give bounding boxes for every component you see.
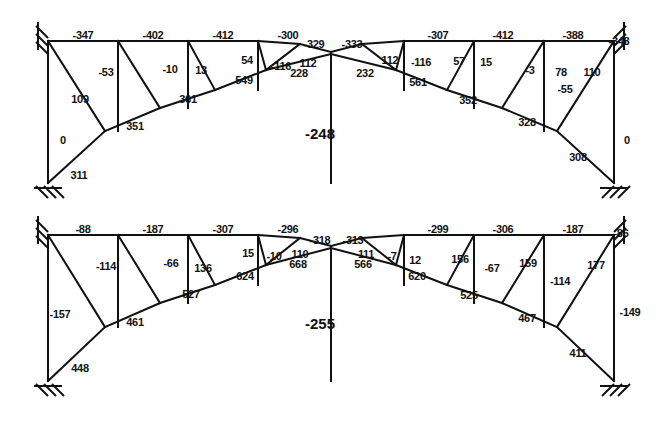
bottom-chord-value-8: -306 bbox=[493, 224, 514, 235]
bottom-truss-center-value: -255 bbox=[305, 316, 335, 331]
top-truss-top-chord bbox=[48, 41, 614, 52]
top-chord-value-10: -348 bbox=[609, 36, 630, 47]
top-left-post-value: 0 bbox=[60, 135, 66, 146]
bottom-bottom-chord-value-8: 525 bbox=[460, 290, 477, 301]
bottom-truss-diagonal-7 bbox=[396, 235, 404, 265]
top-web-value-5: -116 bbox=[271, 61, 291, 72]
top-chord-value-1: -347 bbox=[73, 30, 94, 41]
top-web-value-9: 57 bbox=[453, 56, 465, 67]
bottom-bottom-chord-value-4: 624 bbox=[236, 271, 253, 282]
top-bottom-chord-value-6: 232 bbox=[356, 68, 373, 79]
bottom-chord-value-3: -307 bbox=[213, 224, 234, 235]
top-web-value-12: 78 bbox=[555, 67, 567, 78]
bottom-chord-value-10: -86 bbox=[614, 228, 629, 239]
bottom-web-value-5: -10 bbox=[267, 251, 282, 262]
bottom-bottom-chord-value-1: 448 bbox=[71, 363, 88, 374]
top-web-value-3: 13 bbox=[195, 65, 207, 76]
bottom-bottom-chord-value-6: 566 bbox=[354, 259, 371, 270]
bottom-bottom-chord-value-7: 620 bbox=[408, 271, 425, 282]
bottom-web-value-12: 159 bbox=[519, 258, 536, 269]
top-bottom-chord-value-4: 549 bbox=[235, 75, 252, 86]
top-web-value-13: -55 bbox=[558, 84, 573, 95]
bottom-web-value-3: 136 bbox=[194, 263, 211, 274]
top-bottom-chord-value-10: 308 bbox=[569, 152, 586, 163]
bottom-bottom-chord-value-3: 527 bbox=[182, 289, 199, 300]
top-chord-value-3: -412 bbox=[213, 30, 234, 41]
top-truss-diagonal-9 bbox=[502, 41, 544, 108]
bottom-web-value-9: 12 bbox=[409, 255, 421, 266]
bottom-web-value-4: 15 bbox=[242, 248, 254, 259]
top-chord-value-9: -388 bbox=[563, 30, 584, 41]
top-bottom-chord-value-9: 328 bbox=[518, 117, 535, 128]
top-bottom-chord-value-1: 311 bbox=[71, 170, 88, 181]
top-right-post-value: 0 bbox=[624, 135, 630, 146]
top-web-value-11: -3 bbox=[525, 65, 534, 76]
bottom-web-value-10: 156 bbox=[451, 254, 468, 265]
top-chord-value-6: -333 bbox=[342, 39, 363, 50]
bottom-truss-diagonal-9 bbox=[502, 235, 544, 303]
top-bottom-chord-value-2: 351 bbox=[126, 121, 143, 132]
bottom-chord-value-2: -187 bbox=[143, 224, 164, 235]
top-web-value-1: -53 bbox=[99, 67, 114, 78]
top-truss-diagonal-2 bbox=[118, 41, 160, 108]
top-chord-value-5: -329 bbox=[304, 39, 325, 50]
top-chord-value-7: -307 bbox=[428, 30, 449, 41]
bottom-chord-value-1: -88 bbox=[76, 224, 91, 235]
force-diagram-figure: -347 -402 -412 -300 -329 -333 -307 -412 … bbox=[0, 0, 662, 432]
top-web-value-7: 112 bbox=[382, 55, 399, 66]
bottom-chord-value-4: -296 bbox=[278, 224, 299, 235]
bottom-web-value-11: -67 bbox=[485, 263, 500, 274]
bottom-right-post-value: -149 bbox=[620, 307, 641, 318]
top-left-diagonal-value: 109 bbox=[71, 94, 88, 105]
bottom-web-value-1: -114 bbox=[96, 261, 116, 272]
top-truss-diagonal-1 bbox=[48, 41, 105, 131]
top-right-diagonal-value: 110 bbox=[584, 67, 601, 78]
bottom-left-post-value: -157 bbox=[50, 309, 71, 320]
bottom-web-value-8: -7 bbox=[387, 251, 396, 262]
bottom-truss-diagonal-2 bbox=[118, 235, 160, 303]
top-bottom-chord-value-5: 228 bbox=[290, 68, 307, 79]
bottom-bottom-chord-value-9: 467 bbox=[518, 313, 535, 324]
bottom-truss-top-chord bbox=[48, 235, 614, 246]
bottom-truss-diagonal-4 bbox=[258, 235, 266, 265]
top-truss-diagonal-4 bbox=[258, 41, 266, 70]
bottom-web-value-14: 177 bbox=[587, 260, 604, 271]
top-web-value-10: 15 bbox=[480, 57, 492, 68]
top-bottom-chord-value-8: 352 bbox=[459, 95, 476, 106]
top-chord-value-4: -300 bbox=[278, 30, 299, 41]
top-bottom-chord-value-7: 561 bbox=[409, 77, 426, 88]
top-web-value-4: 54 bbox=[241, 55, 253, 66]
bottom-chord-value-7: -299 bbox=[428, 224, 449, 235]
bottom-bottom-chord-value-5: 668 bbox=[289, 259, 306, 270]
bottom-web-value-2: -66 bbox=[164, 258, 179, 269]
bottom-bottom-chord-value-2: 461 bbox=[126, 317, 143, 328]
bottom-chord-value-9: -187 bbox=[563, 224, 584, 235]
bottom-chord-value-6: -313 bbox=[343, 235, 364, 246]
top-chord-value-8: -412 bbox=[493, 30, 514, 41]
bottom-bottom-chord-value-10: 411 bbox=[570, 348, 587, 359]
top-truss-center-value: -248 bbox=[305, 126, 335, 141]
top-web-value-8: -116 bbox=[411, 57, 431, 68]
top-web-value-2: -10 bbox=[163, 64, 178, 75]
bottom-chord-value-5: -318 bbox=[310, 235, 331, 246]
top-bottom-chord-value-3: 361 bbox=[179, 94, 196, 105]
top-chord-value-2: -402 bbox=[143, 30, 164, 41]
bottom-truss-diagonal-3 bbox=[188, 235, 215, 285]
bottom-web-value-13: -114 bbox=[550, 276, 570, 287]
